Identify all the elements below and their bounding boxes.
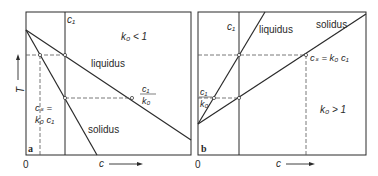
panel-a: c₁ k₀ < 1 liquidus c₁ k₀ cₛ = k₀ c₁ soli… (15, 12, 191, 170)
panel-a-cs-label-line1: cₛ = (35, 102, 52, 113)
panel-b-tag: b (201, 143, 207, 154)
panel-b-point-solidus-cs (304, 53, 307, 56)
panel-b: c₁ liquidus solidus cₛ = k₀ c₁ c₁ k₀ k₀ … (195, 12, 366, 170)
panel-a-c1-label: c₁ (67, 14, 75, 25)
panel-b-solidus-label: solidus (316, 19, 347, 30)
phase-diagram-figure: c₁ k₀ < 1 liquidus c₁ k₀ cₛ = k₀ c₁ soli… (0, 0, 378, 176)
panel-b-liquidus-label: liquidus (259, 24, 293, 35)
panel-a-liquidus-label: liquidus (91, 58, 125, 69)
panel-a-cs-label-line2: k₀ c₁ (35, 114, 54, 125)
panel-b-point-liquidus-c1k0 (212, 96, 215, 99)
panel-b-cs-label: cₛ = k₀ c₁ (310, 52, 349, 63)
panel-b-point-solidus-c1 (237, 96, 240, 99)
panel-b-x-axis-label: c (276, 158, 281, 169)
panel-b-point-liquidus-c1 (237, 53, 240, 56)
panel-a-y-arrow-head (16, 54, 20, 60)
panel-a-y-axis-label: T (15, 86, 26, 93)
panel-a-x-axis-label: c (99, 158, 104, 169)
panel-b-c1-label: c₁ (227, 21, 235, 32)
panel-a-point-liquidus-c1 (63, 53, 66, 56)
panel-a-tag: a (28, 143, 33, 154)
panel-b-origin-label: 0 (195, 159, 201, 170)
panel-a-solidus-line (26, 30, 97, 155)
panel-a-c1k0-denominator: k₀ (142, 96, 151, 106)
panel-a-solidus-label: solidus (88, 124, 119, 135)
panel-a-origin-label: 0 (23, 159, 29, 170)
panel-a-point-liquidus-c1k0 (130, 96, 133, 99)
panel-a-condition-label: k₀ < 1 (121, 31, 147, 42)
panel-a-point-solidus-c1 (63, 96, 66, 99)
panel-b-condition-label: k₀ > 1 (320, 104, 346, 115)
panel-a-c1k0-numerator: c₁ (142, 84, 150, 94)
panel-b-c1k0-numerator: c₁ (200, 87, 208, 97)
panel-a-x-arrow-head (137, 162, 143, 166)
panel-a-point-solidus-cs (38, 53, 41, 56)
panel-b-x-arrow-head (309, 162, 315, 166)
panel-b-c1k0-denominator: k₀ (200, 99, 209, 109)
